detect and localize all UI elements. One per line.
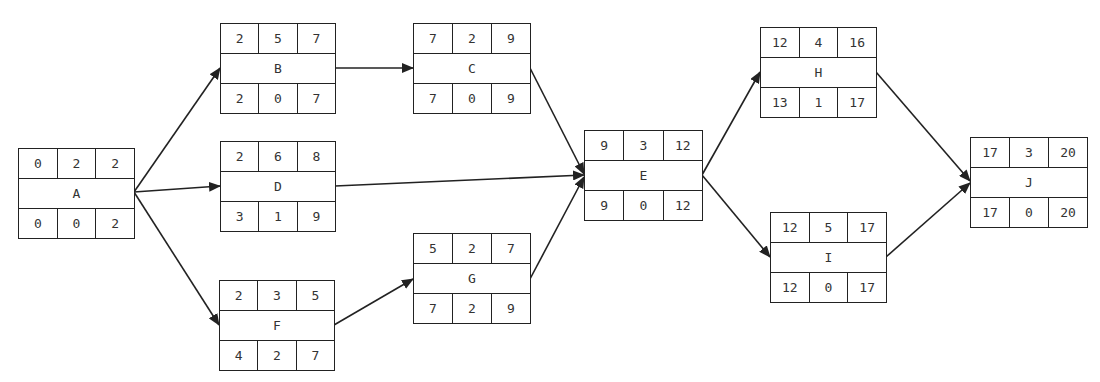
early-start: 7 [414,24,453,53]
node-label: D [221,172,335,201]
late-finish: 12 [664,191,702,220]
edge-h-j [876,72,970,181]
early-start: 2 [220,281,258,310]
edge-f-g [334,279,413,325]
late-finish: 2 [96,209,134,238]
early-start: 17 [971,138,1010,167]
slack: 0 [624,191,663,220]
slack: 1 [259,202,297,231]
node-c: 729 C 709 [413,23,531,114]
late-start: 3 [221,202,259,231]
duration: 3 [258,281,296,310]
edge-c-e [530,68,584,174]
late-finish: 7 [297,341,334,370]
late-finish: 17 [848,273,886,302]
late-finish: 9 [492,84,530,113]
node-label: B [221,54,335,83]
slack: 0 [453,84,492,113]
early-finish: 16 [838,28,876,57]
slack: 0 [259,84,297,113]
slack: 2 [453,294,492,323]
early-finish: 20 [1049,138,1087,167]
node-d: 268 D 319 [220,141,336,232]
late-start: 2 [221,84,259,113]
node-a: 022 A 002 [18,148,135,239]
late-start: 12 [771,273,810,302]
late-start: 17 [971,198,1010,227]
early-start: 5 [414,234,453,263]
node-label: C [414,54,530,83]
node-g: 527 G 729 [413,233,531,324]
early-finish: 2 [96,149,134,178]
late-finish: 7 [298,84,335,113]
early-finish: 8 [298,142,335,171]
duration: 2 [453,24,492,53]
late-start: 13 [761,88,800,117]
late-finish: 9 [492,294,530,323]
node-label: E [585,161,702,190]
node-label: H [761,58,876,87]
late-finish: 17 [838,88,876,117]
edge-i-j [886,183,970,257]
edge-a-d [134,186,220,192]
node-i: 12517 I 12017 [770,212,887,303]
early-start: 9 [585,131,624,160]
late-start: 9 [585,191,624,220]
node-j: 17320 J 17020 [970,137,1088,228]
early-finish: 12 [664,131,702,160]
duration: 3 [1010,138,1049,167]
edge-d-e [335,175,584,186]
late-start: 7 [414,84,453,113]
node-label: F [220,311,334,340]
duration: 2 [58,149,97,178]
late-finish: 20 [1049,198,1087,227]
early-finish: 9 [492,24,530,53]
edge-a-b [134,68,220,192]
early-start: 12 [761,28,800,57]
early-finish: 5 [297,281,334,310]
slack: 1 [800,88,839,117]
edge-e-h [702,72,760,175]
edge-g-e [530,177,584,279]
late-start: 0 [19,209,58,238]
late-start: 4 [220,341,258,370]
node-f: 235 F 427 [219,280,335,371]
edge-e-i [702,175,770,257]
node-e: 9312 E 9012 [584,130,703,221]
duration: 3 [624,131,663,160]
node-label: J [971,168,1087,197]
slack: 0 [810,273,849,302]
node-label: G [414,264,530,293]
early-finish: 7 [492,234,530,263]
duration: 5 [259,24,297,53]
duration: 2 [453,234,492,263]
slack: 2 [258,341,296,370]
slack: 0 [58,209,97,238]
edges-layer [0,0,1100,382]
node-b: 257 B 207 [220,23,336,114]
slack: 0 [1010,198,1049,227]
node-label: A [19,179,134,208]
duration: 5 [810,213,849,242]
node-h: 12416 H 13117 [760,27,877,118]
duration: 6 [259,142,297,171]
node-label: I [771,243,886,272]
early-start: 2 [221,142,259,171]
late-start: 7 [414,294,453,323]
early-start: 12 [771,213,810,242]
edge-a-f [134,192,219,325]
early-finish: 17 [848,213,886,242]
duration: 4 [800,28,839,57]
early-start: 0 [19,149,58,178]
late-finish: 9 [298,202,335,231]
early-finish: 7 [298,24,335,53]
early-start: 2 [221,24,259,53]
